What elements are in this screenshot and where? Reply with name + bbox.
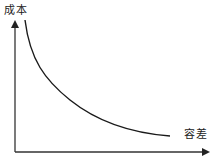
y-axis-label: 成本 xyxy=(4,1,27,17)
cost-curve xyxy=(25,20,170,136)
chart-canvas xyxy=(0,0,215,165)
x-axis-label: 容差 xyxy=(184,125,207,141)
cost-tolerance-chart: 成本 容差 xyxy=(0,0,215,165)
